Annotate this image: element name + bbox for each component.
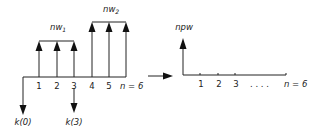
- up-arrow-icon: [180, 38, 187, 49]
- down-arrow-icon: [20, 105, 27, 115]
- tick-label: 2: [54, 81, 59, 91]
- down-arrow-icon: [71, 103, 78, 113]
- up-arrow-icon: [71, 41, 78, 51]
- k3-label: k(3): [66, 117, 83, 127]
- right-arrow-icon: [163, 73, 173, 80]
- k0-label: k(0): [15, 117, 32, 127]
- up-arrow-icon: [106, 22, 113, 32]
- group2-label: nw2: [103, 4, 119, 15]
- up-arrow-icon: [54, 41, 61, 51]
- up-arrow-icon: [36, 41, 43, 51]
- tick-label: 4: [89, 81, 94, 91]
- tick-label: 3: [233, 79, 238, 89]
- tick-label: 1: [36, 81, 41, 91]
- end-label: n = 6: [120, 81, 144, 91]
- end-label: n = 6: [284, 79, 308, 89]
- right-npw-diagram: [183, 45, 286, 75]
- left-cash-flow: [23, 22, 126, 108]
- cash-flow-diagram: 1 2 3 4 5 n = 6 nw1 nw2 k(0) k(3) npw 1 …: [0, 0, 320, 133]
- tick-label: 3: [71, 81, 76, 91]
- tick-label: 2: [216, 79, 221, 89]
- tick-label: 1: [198, 79, 203, 89]
- tick-label: 5: [106, 81, 111, 91]
- npw-label: npw: [175, 22, 193, 32]
- ellipsis: . . . .: [250, 79, 269, 89]
- up-arrow-icon: [123, 22, 130, 32]
- up-arrow-icon: [89, 22, 96, 32]
- group1-label: nw1: [50, 22, 66, 33]
